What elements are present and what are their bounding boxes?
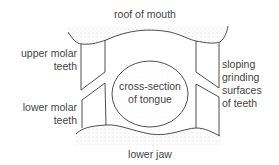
label-sloping-grinding-surfaces: sloping grinding surfaces of teeth [222, 58, 278, 110]
label-lower-molar-line-1: lower molar [6, 101, 77, 114]
label-roof-of-mouth-text: roof of mouth [114, 8, 176, 20]
label-upper-molar-line-2: teeth [6, 60, 77, 73]
label-sloping-line-1: sloping [222, 58, 278, 71]
roof-of-mouth [60, 18, 235, 44]
upper-left-molar [81, 40, 105, 90]
upper-right-molar [196, 41, 219, 88]
label-lower-jaw-text: lower jaw [128, 148, 172, 160]
label-sloping-line-2: grinding [222, 71, 278, 84]
mouth-cross-section-diagram: roof of mouth upper molar teeth lower mo… [0, 0, 279, 165]
label-tongue-line-2: of tongue [112, 93, 188, 106]
label-lower-molar-teeth: lower molar teeth [6, 101, 77, 127]
label-lower-jaw: lower jaw [110, 148, 190, 161]
label-upper-molar-line-1: upper molar [6, 47, 77, 60]
label-tongue-line-1: cross-section [112, 80, 188, 93]
label-sloping-line-4: of teeth [222, 97, 278, 110]
label-upper-molar-teeth: upper molar teeth [6, 47, 77, 73]
label-lower-molar-line-2: teeth [6, 114, 77, 127]
label-roof-of-mouth: roof of mouth [100, 8, 190, 21]
label-sloping-line-3: surfaces [222, 84, 278, 97]
label-tongue: cross-section of tongue [112, 80, 188, 106]
lower-left-molar [82, 83, 106, 128]
